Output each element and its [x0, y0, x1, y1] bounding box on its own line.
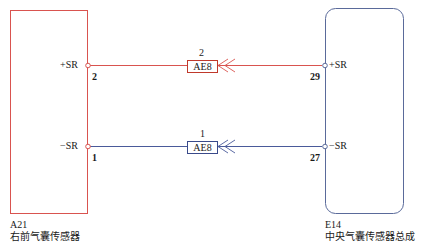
connector-ae8-minus: AE8 [187, 141, 218, 154]
connector-ae8-plus: AE8 [187, 60, 218, 73]
right-pin-signal-plus: +SR [329, 60, 347, 70]
left-pin-signal-minus: −SR [60, 141, 78, 151]
pin-terminal-left-2 [86, 63, 91, 68]
pin-terminal-right-27 [323, 144, 328, 149]
left-component-name: 右前气囊传感器 [10, 231, 80, 243]
left-pin-signal-plus: +SR [60, 60, 78, 70]
left-component-box [11, 11, 88, 214]
left-pin-number-2: 2 [92, 72, 97, 82]
connector-pin-number: 2 [199, 48, 204, 58]
connector-pin-number: 1 [200, 129, 205, 139]
wiring-diagram [0, 0, 421, 247]
pin-terminal-right-29 [323, 63, 328, 68]
pin-terminal-left-1 [86, 144, 91, 149]
right-component-id: E14 [325, 219, 341, 230]
right-pin-number-29: 29 [310, 72, 320, 82]
left-component-id: A21 [10, 219, 27, 230]
right-component-box [326, 9, 404, 214]
left-pin-number-1: 1 [92, 153, 97, 163]
right-pin-signal-minus: −SR [329, 141, 347, 151]
right-pin-number-27: 27 [310, 153, 320, 163]
right-component-name: 中央气囊传感器总成 [325, 231, 415, 243]
